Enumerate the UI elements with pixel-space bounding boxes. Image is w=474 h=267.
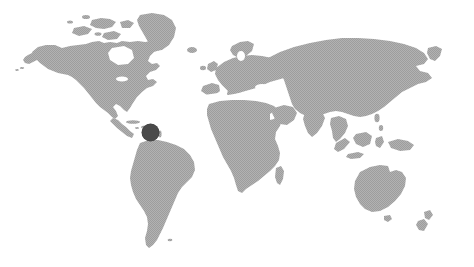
region-iceland: [187, 47, 197, 53]
region-ireland: [200, 66, 206, 70]
region-taiwan: [369, 103, 373, 108]
black-sea: [255, 84, 269, 90]
island-jamaica: [135, 127, 139, 129]
aleutian-island-1: [20, 67, 24, 69]
great-lakes: [116, 76, 128, 81]
region-korea: [376, 82, 381, 89]
aleutian-island-2: [15, 69, 19, 71]
world-map-svg: [0, 0, 474, 267]
island-cuba: [126, 120, 140, 124]
location-marker-caribbean[interactable]: [142, 124, 159, 141]
region-japan-south: [379, 95, 386, 98]
region-sakhalin: [398, 61, 402, 71]
region-philippines-1: [374, 114, 379, 122]
world-map-figure: Grayscale world map with a single dark l…: [0, 0, 474, 267]
baltic-sea: [237, 51, 245, 61]
region-philippines-2: [379, 125, 383, 131]
arctic-islet-3: [67, 20, 73, 23]
island-falklands: [168, 239, 173, 241]
caspian-sea: [279, 84, 287, 96]
arctic-islet-2: [95, 32, 102, 36]
arctic-islet-1: [82, 15, 90, 19]
